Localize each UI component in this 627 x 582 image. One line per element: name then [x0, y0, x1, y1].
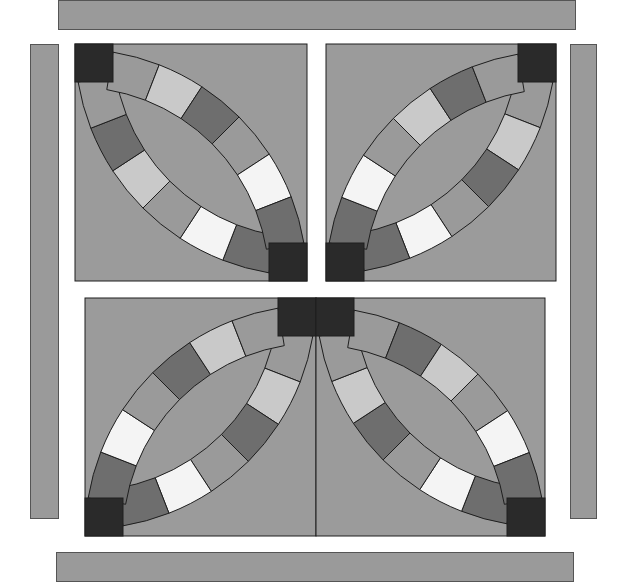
corner-square-bottom-left-top-right	[278, 298, 316, 336]
corner-square-top-right-bottom-left	[326, 243, 364, 281]
corner-square-bottom-right-top-left	[316, 298, 354, 336]
corner-square-bottom-left-bottom-left	[85, 498, 123, 536]
corner-square-top-right-top-right	[518, 44, 556, 82]
corner-square-top-left-top-left	[75, 44, 113, 82]
corner-square-top-left-bottom-right	[269, 243, 307, 281]
corner-square-bottom-right-bottom-right	[507, 498, 545, 536]
